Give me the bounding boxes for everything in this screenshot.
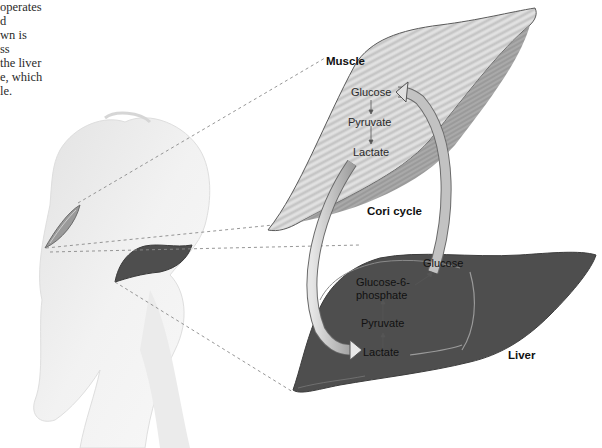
liver-title: Liver — [508, 349, 536, 361]
caption-line: le. — [0, 84, 130, 98]
human-body-illustration — [34, 113, 210, 448]
caption-line: operates — [0, 0, 130, 14]
liver-illustration — [293, 252, 596, 392]
muscle-glucose-label: Glucose — [351, 86, 391, 98]
liver-pyruvate-label: Pyruvate — [361, 317, 404, 329]
cori-cycle-title: Cori cycle — [367, 205, 422, 217]
liver-glucose-label: Glucose — [423, 257, 463, 269]
muscle-title: Muscle — [326, 55, 365, 67]
muscle-pyruvate-label: Pyruvate — [348, 116, 391, 128]
muscle-lactate-label: Lactate — [353, 146, 389, 158]
muscle-illustration — [268, 8, 536, 231]
liver-g6p-label-line1: Glucose-6- — [356, 276, 410, 288]
cori-cycle-diagram: operates d wn is ss the liver e, which l… — [0, 0, 602, 448]
caption-line: the liver — [0, 56, 130, 70]
liver-lactate-label: Lactate — [363, 346, 399, 358]
caption-line: d — [0, 14, 130, 28]
caption-line: ss — [0, 42, 130, 56]
figure-caption: operates d wn is ss the liver e, which l… — [0, 0, 130, 98]
liver-g6p-label-line2: phosphate — [356, 289, 407, 301]
caption-line: wn is — [0, 28, 130, 42]
caption-line: e, which — [0, 70, 130, 84]
